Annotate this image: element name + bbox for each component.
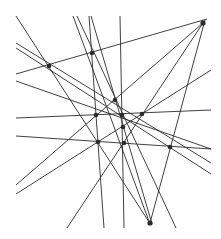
intersection-point-p10 — [122, 141, 127, 146]
intersection-point-p5 — [94, 113, 99, 118]
line-13 — [77, 16, 176, 228]
intersection-point-p7 — [140, 112, 145, 117]
line-1 — [16, 19, 207, 74]
intersection-point-p2 — [90, 51, 95, 56]
lines-group — [16, 16, 211, 228]
intersection-point-p9 — [96, 140, 101, 145]
intersection-point-p11 — [168, 145, 173, 150]
line-arrangement-diagram — [0, 0, 221, 239]
line-11 — [150, 20, 205, 223]
intersection-point-p12 — [147, 220, 152, 225]
points-group — [47, 20, 206, 225]
intersection-point-p6 — [120, 113, 125, 118]
line-14 — [89, 16, 104, 228]
line-9 — [16, 70, 211, 194]
line-7 — [16, 136, 211, 149]
intersection-point-p8 — [121, 125, 126, 130]
line-3 — [16, 43, 211, 163]
intersection-point-p4 — [113, 98, 118, 103]
line-15 — [91, 16, 152, 224]
intersection-point-p1 — [200, 20, 205, 25]
intersection-point-p3 — [47, 64, 52, 69]
line-16 — [120, 16, 124, 228]
